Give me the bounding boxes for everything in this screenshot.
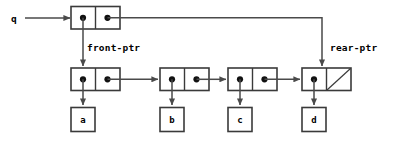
data-box-a: a: [71, 108, 95, 132]
list-node-4: [302, 68, 351, 91]
data-box-b-label: b: [169, 115, 175, 125]
queue-diagram: q front-ptr rear-ptr: [0, 0, 395, 143]
data-box-d-label: d: [311, 115, 316, 125]
data-box-a-label: a: [80, 115, 85, 125]
diagram-canvas: q front-ptr rear-ptr: [0, 0, 395, 143]
variable-label-q: q: [11, 13, 17, 24]
data-box-c: c: [228, 108, 252, 132]
data-box-c-label: c: [237, 115, 242, 125]
rear-ptr-label: rear-ptr: [330, 42, 377, 53]
data-box-b: b: [160, 108, 184, 132]
data-box-d: d: [302, 108, 326, 132]
front-ptr-label: front-ptr: [87, 42, 140, 53]
